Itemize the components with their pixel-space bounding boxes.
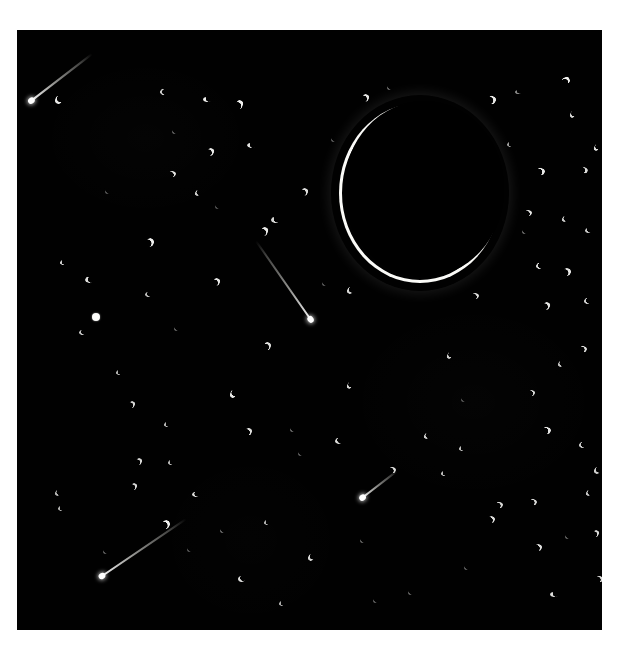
moon-terminator-fade [339, 103, 501, 186]
sky-background [17, 30, 602, 630]
page-root [0, 0, 621, 653]
sky-photograph [17, 30, 602, 630]
crescent-moon-icon [339, 103, 501, 283]
